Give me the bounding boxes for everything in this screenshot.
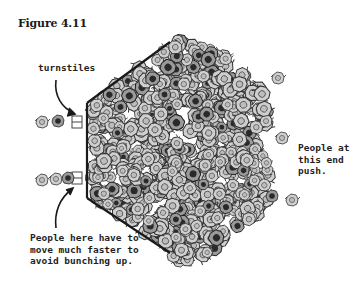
arrow-icon — [56, 188, 73, 228]
turnstile-icon — [72, 116, 82, 128]
push-end-label: People at this end push. — [298, 142, 349, 177]
exiting-people — [35, 115, 74, 186]
arrow-icon — [56, 80, 75, 116]
turnstiles-label: turnstiles — [38, 62, 95, 74]
exit-note-label: People here have to move much faster to … — [30, 232, 139, 267]
